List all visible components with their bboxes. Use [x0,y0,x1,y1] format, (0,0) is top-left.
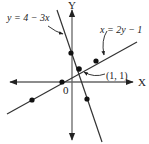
leader-steep-label [48,26,63,34]
equation-label-steep: y = 4 − 3x [6,12,50,23]
point-shallow-upper [93,58,98,63]
coordinate-plane-diagram: y = 4 − 3x x = 2y − 1 (1, 1) X Y 0 [0,0,149,144]
y-axis-label: Y [68,0,76,11]
x-axis-label: X [138,76,146,88]
origin-label: 0 [63,84,69,96]
point-steep-lower [84,96,89,101]
point-steep-upper [68,50,73,55]
equation-label-shallow: x = 2y − 1 [99,24,142,35]
leader-intersection-label [84,72,105,76]
point-shallow-lower [29,97,34,102]
point-intersection [76,66,82,72]
intersection-label: (1, 1) [106,70,128,82]
